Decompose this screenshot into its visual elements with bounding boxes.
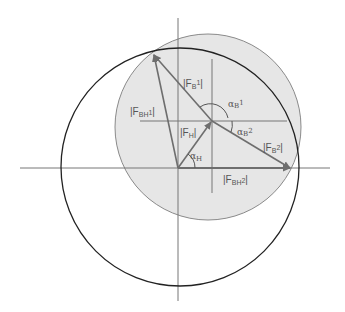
- force-vector-diagram: |FB1| |FBH1| αB1 |FH| αB2 |FB2| αH |FBH2…: [0, 0, 345, 312]
- label-F-H: |FH|: [180, 127, 196, 139]
